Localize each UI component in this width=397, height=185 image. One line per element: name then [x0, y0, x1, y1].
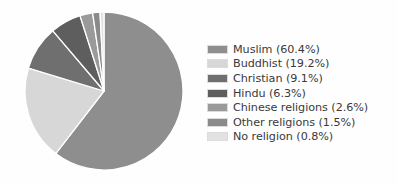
legend-label-no-religion: No religion (0.8%) [233, 130, 333, 143]
legend-swatch-no-religion [207, 132, 228, 141]
legend-item-christian: Christian (9.1%) [207, 71, 395, 86]
legend-swatch-buddhist [207, 59, 228, 68]
legend-swatch-christian [207, 74, 228, 83]
legend-label-hindu: Hindu (6.3%) [233, 87, 306, 100]
pie-chart-figure: Muslim (60.4%) Buddhist (19.2%) Christia… [0, 0, 397, 185]
legend-label-chinese-religions: Chinese religions (2.6%) [233, 101, 368, 114]
legend-item-muslim: Muslim (60.4%) [207, 42, 395, 57]
legend-item-hindu: Hindu (6.3%) [207, 86, 395, 101]
legend-swatch-chinese-religions [207, 103, 228, 112]
legend-label-muslim: Muslim (60.4%) [233, 43, 320, 56]
legend-label-other-religions: Other religions (1.5%) [233, 116, 355, 129]
chart-legend: Muslim (60.4%) Buddhist (19.2%) Christia… [207, 42, 395, 144]
legend-swatch-muslim [207, 45, 228, 54]
legend-swatch-other-religions [207, 118, 228, 127]
legend-item-no-religion: No religion (0.8%) [207, 130, 395, 145]
legend-item-chinese-religions: Chinese religions (2.6%) [207, 100, 395, 115]
legend-label-buddhist: Buddhist (19.2%) [233, 57, 329, 70]
pie-plot-area [20, 6, 192, 180]
pie-slice-group [25, 12, 183, 170]
legend-item-other-religions: Other religions (1.5%) [207, 115, 395, 130]
legend-item-buddhist: Buddhist (19.2%) [207, 57, 395, 72]
pie-svg [20, 6, 192, 180]
legend-label-christian: Christian (9.1%) [233, 72, 323, 85]
legend-swatch-hindu [207, 89, 228, 98]
